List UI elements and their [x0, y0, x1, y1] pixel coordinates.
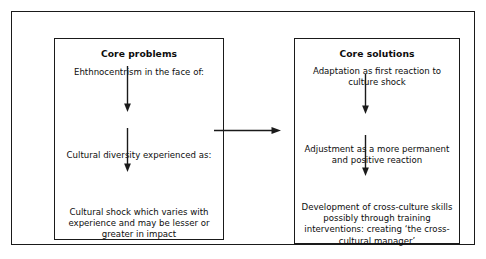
core-problems-panel: Core problems Ehthnocentrism in the face…	[54, 38, 224, 240]
core-solutions-step-2: Adjustment as a more permanent and posit…	[295, 144, 459, 166]
down-arrow-icon	[361, 135, 370, 176]
down-arrow-icon	[123, 128, 132, 172]
core-problems-step-3: Cultural shock which varies with experie…	[55, 207, 223, 241]
core-solutions-heading: Core solutions	[295, 48, 459, 59]
core-problems-step-2: Cultural diversity experienced as:	[55, 150, 223, 161]
down-arrow-icon	[123, 66, 132, 112]
right-arrow-icon	[214, 126, 281, 135]
core-problems-step-1: Ehthnocentrism in the face of:	[55, 67, 223, 78]
down-arrow-icon	[361, 74, 370, 114]
core-solutions-panel: Core solutions Adaptation as first react…	[294, 38, 460, 244]
core-problems-heading: Core problems	[55, 48, 223, 59]
core-solutions-step-1: Adaptation as first reaction to culture …	[295, 66, 459, 88]
core-solutions-step-3: Development of cross-culture skills poss…	[295, 202, 459, 247]
